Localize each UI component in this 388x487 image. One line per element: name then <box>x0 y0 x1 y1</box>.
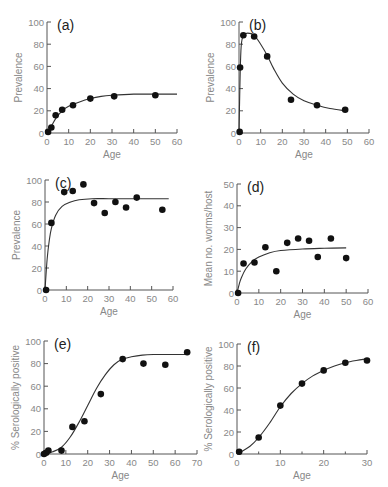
data-point <box>140 360 147 367</box>
panel-label: (d) <box>247 179 264 195</box>
y-tick-label: 100 <box>26 175 42 186</box>
y-axis-label: Prevalence <box>205 52 216 102</box>
x-tick-label: 70 <box>192 457 203 468</box>
y-tick-label: 0 <box>229 288 234 299</box>
x-tick-label: 40 <box>319 296 330 307</box>
panel-label: (a) <box>57 17 74 33</box>
y-tick-label: 50 <box>223 179 234 190</box>
panel-label: (c) <box>55 175 71 191</box>
x-axis-label: Age <box>103 149 121 160</box>
data-point <box>255 434 262 441</box>
x-tick-label: 10 <box>63 136 74 147</box>
panel-c: 0204060801000102030405060AgePrevalence(c… <box>11 175 178 318</box>
data-point <box>152 92 159 99</box>
data-point <box>59 106 66 113</box>
panel-f: 0204060801000102030Age% Serologically po… <box>203 339 372 482</box>
x-tick-label: 50 <box>341 296 352 307</box>
axes <box>47 22 177 133</box>
x-axis-label: Age <box>100 306 118 317</box>
data-point <box>284 240 291 247</box>
data-point <box>343 255 350 262</box>
data-point <box>133 194 140 201</box>
x-tick-label: 50 <box>150 136 161 147</box>
y-tick-label: 60 <box>31 219 42 230</box>
x-tick-label: 0 <box>234 296 239 307</box>
y-axis-label: % Serologically positive <box>10 345 21 450</box>
data-point <box>45 447 52 454</box>
data-point <box>320 367 327 374</box>
data-point <box>314 254 321 261</box>
data-point <box>159 206 166 213</box>
x-tick-label: 20 <box>82 457 93 468</box>
x-tick-label: 40 <box>126 457 137 468</box>
x-tick-label: 60 <box>364 136 375 147</box>
fit-curve <box>47 94 177 133</box>
data-point <box>80 181 87 188</box>
y-tick-label: 40 <box>30 403 41 414</box>
y-axis-label: Prevalence <box>11 210 22 260</box>
y-tick-label: 60 <box>33 61 44 72</box>
y-tick-label: 0 <box>231 128 236 139</box>
y-tick-label: 80 <box>31 197 42 208</box>
y-tick-label: 30 <box>223 222 234 233</box>
panel-b: 0204060801000102030405060AgePrevalence(b… <box>205 17 374 161</box>
data-point <box>236 449 243 456</box>
data-point <box>48 124 55 131</box>
x-tick-label: 0 <box>42 293 47 304</box>
data-point <box>295 235 302 242</box>
x-tick-label: 10 <box>61 293 72 304</box>
y-tick-label: 0 <box>37 285 42 296</box>
data-point <box>119 356 126 363</box>
fit-curve <box>239 33 345 133</box>
x-tick-label: 20 <box>318 457 329 468</box>
data-point <box>251 259 258 266</box>
data-point <box>91 200 98 207</box>
y-tick-label: 40 <box>31 241 42 252</box>
y-axis-label: Prevalence <box>13 52 24 102</box>
x-tick-label: 50 <box>146 293 157 304</box>
x-tick-label: 20 <box>275 296 286 307</box>
x-tick-label: 50 <box>342 136 353 147</box>
data-point <box>70 102 77 109</box>
data-point <box>69 188 76 195</box>
data-point <box>342 106 349 113</box>
x-tick-label: 60 <box>172 136 183 147</box>
axes <box>45 180 173 290</box>
data-point <box>162 361 169 368</box>
y-tick-label: 60 <box>223 383 234 394</box>
x-tick-label: 0 <box>44 136 49 147</box>
data-point <box>314 102 321 109</box>
data-point <box>288 96 295 103</box>
panel-label: (f) <box>247 339 260 355</box>
x-tick-label: 30 <box>297 296 308 307</box>
data-point <box>262 244 269 251</box>
y-tick-label: 10 <box>223 266 234 277</box>
data-point <box>236 129 243 136</box>
y-tick-label: 100 <box>220 17 236 28</box>
x-tick-label: 30 <box>104 293 115 304</box>
y-tick-label: 20 <box>30 426 41 437</box>
x-tick-label: 40 <box>125 293 136 304</box>
data-point <box>235 290 242 297</box>
data-point <box>342 359 349 366</box>
data-point <box>240 260 247 267</box>
y-tick-label: 20 <box>223 427 234 438</box>
y-tick-label: 80 <box>33 39 44 50</box>
x-tick-label: 30 <box>104 457 115 468</box>
x-tick-label: 10 <box>255 136 266 147</box>
data-point <box>328 235 335 242</box>
x-axis-label: Age <box>295 149 313 160</box>
x-tick-label: 60 <box>170 457 181 468</box>
data-point <box>299 380 306 387</box>
axes <box>239 22 369 133</box>
x-tick-label: 20 <box>85 136 96 147</box>
y-tick-label: 20 <box>31 263 42 274</box>
panel-label: (b) <box>249 17 266 33</box>
x-tick-label: 30 <box>107 136 118 147</box>
y-tick-label: 0 <box>229 449 234 460</box>
data-point <box>81 418 88 425</box>
data-point <box>111 93 118 100</box>
y-tick-label: 60 <box>30 381 41 392</box>
panel-e: 020406080100010203040506070Age% Serologi… <box>10 336 202 482</box>
data-point <box>364 357 371 364</box>
